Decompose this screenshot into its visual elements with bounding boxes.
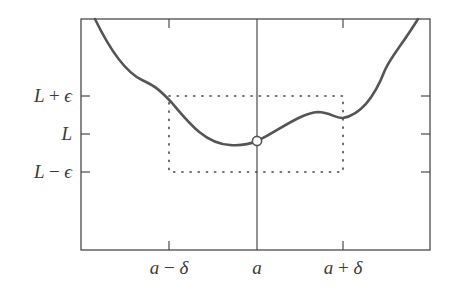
x-label-left-op: − [164, 257, 175, 278]
y-label-middle-base: L [61, 123, 72, 144]
epsilon-delta-box [169, 96, 343, 172]
x-label-a-minus-delta: a − δ [134, 258, 204, 277]
y-label-upper-sym: ϵ [64, 85, 72, 106]
plot-frame [81, 19, 430, 250]
y-label-upper-base: L [34, 85, 44, 106]
x-label-right-base: a [324, 257, 334, 278]
y-label-lower-op: − [49, 161, 60, 182]
y-label-L: L [2, 124, 72, 143]
y-label-upper-op: + [49, 85, 60, 106]
y-label-lower-sym: ϵ [64, 161, 72, 182]
x-label-a: a [222, 258, 292, 277]
y-label-L-minus-epsilon: L − ϵ [2, 162, 72, 181]
x-label-right-op: + [338, 257, 349, 278]
y-axis-ticks-left [81, 96, 90, 172]
y-label-lower-base: L [34, 161, 44, 182]
y-axis-ticks-right [421, 96, 430, 172]
x-axis-ticks-bottom [169, 241, 343, 250]
x-label-a-plus-delta: a + δ [308, 258, 378, 277]
x-label-middle-base: a [252, 257, 262, 278]
x-axis-ticks-top [169, 19, 343, 28]
y-label-L-plus-epsilon: L + ϵ [2, 86, 72, 105]
epsilon-delta-diagram [0, 0, 453, 294]
open-circle-marker [252, 136, 261, 145]
x-label-left-base: a [150, 257, 160, 278]
x-label-left-sym: δ [179, 257, 188, 278]
x-label-right-sym: δ [353, 257, 362, 278]
